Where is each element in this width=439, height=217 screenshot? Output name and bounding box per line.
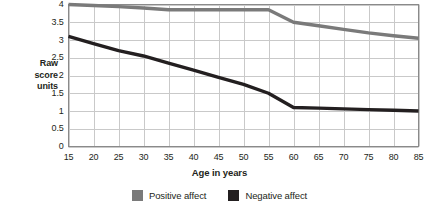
chart-legend: Positive affectNegative affect bbox=[0, 190, 439, 201]
chart-container: Raw score units 00.511.522.533.54 152025… bbox=[0, 0, 439, 217]
legend-swatch-positive-affect bbox=[132, 190, 143, 201]
legend-label: Positive affect bbox=[149, 190, 206, 201]
plot-area bbox=[0, 0, 439, 217]
chart-gridlines bbox=[69, 5, 420, 148]
series-line-positive-affect bbox=[69, 5, 419, 39]
series-line-negative-affect bbox=[69, 36, 419, 111]
legend-item[interactable]: Negative affect bbox=[228, 190, 307, 201]
legend-swatch-negative-affect bbox=[228, 190, 239, 201]
plot-frame bbox=[69, 5, 419, 147]
legend-label: Negative affect bbox=[245, 190, 307, 201]
legend-item[interactable]: Positive affect bbox=[132, 190, 206, 201]
x-axis-title: Age in years bbox=[0, 167, 439, 178]
